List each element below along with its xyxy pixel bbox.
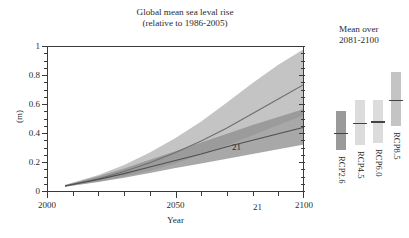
legend-label-rcp6-0: RCP6.0 [374, 149, 384, 177]
legend-title-line-1: Mean over [339, 24, 379, 35]
y-tick-minor-right [301, 82, 305, 83]
y-tick-minor-right [301, 184, 305, 185]
y-tick-minor-right [301, 169, 305, 170]
y-tick-major-right [299, 133, 305, 134]
y-tick-major-right [299, 46, 305, 47]
y-tick-major-right [299, 75, 305, 76]
x-axis-label: Year [47, 215, 304, 225]
y-tick-minor-right [301, 119, 305, 120]
y-tick-minor [44, 111, 48, 112]
x-tick-label: 2050 [167, 200, 185, 210]
y-tick-minor-right [301, 148, 305, 149]
y-tick-minor [44, 82, 48, 83]
y-tick-minor-right [301, 155, 305, 156]
x-tick-major [176, 192, 177, 198]
y-tick-label: 0 [36, 186, 41, 196]
y-tick-major [42, 75, 48, 76]
x-tick-minor [98, 192, 99, 196]
x-tick-minor [227, 192, 228, 196]
y-tick-minor [44, 148, 48, 149]
y-tick-minor-right [301, 111, 305, 112]
legend-median-rcp8-5 [389, 100, 403, 101]
y-tick-major-right [299, 191, 305, 192]
y-tick-minor [44, 61, 48, 62]
legend-label-rcp2-6: RCP2.6 [337, 156, 347, 184]
uncertainty-bands [47, 46, 304, 192]
legend-title-line-2: 2081-2100 [339, 35, 379, 46]
y-tick-minor-right [301, 53, 305, 54]
y-tick-minor-right [301, 177, 305, 178]
y-tick-label: 1 [36, 41, 41, 51]
y-tick-minor-right [301, 90, 305, 91]
annotation-lower: 21 [253, 202, 262, 212]
y-tick-minor-right [301, 140, 305, 141]
y-tick-minor [44, 155, 48, 156]
legend-label-rcp8-5: RCP8.5 [392, 132, 402, 160]
y-tick-minor [44, 169, 48, 170]
legend-median-rcp6-0 [371, 121, 385, 122]
x-tick-minor [124, 192, 125, 196]
x-tick-label: 2000 [38, 200, 56, 210]
y-tick-label: 0.4 [29, 128, 40, 138]
y-tick-minor [44, 177, 48, 178]
y-tick-major [42, 133, 48, 134]
y-tick-label: 0.8 [29, 70, 40, 80]
x-tick-label: 2100 [295, 200, 313, 210]
y-tick-minor [44, 119, 48, 120]
y-tick-minor [44, 140, 48, 141]
y-tick-minor [44, 184, 48, 185]
x-tick-major [303, 192, 304, 198]
y-tick-minor [44, 90, 48, 91]
chart-subtitle: (relative to 1986-2005) [70, 18, 300, 29]
legend-bars: RCP2.6RCP4.5RCP6.0RCP8.5 [326, 46, 406, 192]
y-tick-minor [44, 68, 48, 69]
x-tick-minor [201, 192, 202, 196]
x-tick-minor [73, 192, 74, 196]
y-tick-major [42, 104, 48, 105]
x-tick-minor [150, 192, 151, 196]
y-tick-minor-right [301, 61, 305, 62]
y-tick-minor-right [301, 126, 305, 127]
x-tick-major [47, 192, 48, 198]
y-tick-minor [44, 53, 48, 54]
y-tick-label: 0.6 [29, 99, 40, 109]
annotation-upper: 21 [232, 142, 241, 152]
plot-area: 00.20.40.60.81 200020502100 21 21 [47, 46, 304, 191]
x-tick-minor [253, 192, 254, 196]
y-tick-minor [44, 97, 48, 98]
y-tick-major [42, 46, 48, 47]
legend-label-rcp4-5: RCP4.5 [356, 151, 366, 179]
y-tick-major [42, 162, 48, 163]
chart-title: Global mean sea leval rise [70, 7, 300, 18]
axis-top [47, 46, 304, 47]
y-tick-major-right [299, 162, 305, 163]
legend-bar-rcp2-6 [336, 111, 346, 150]
legend-title: Mean over 2081-2100 [339, 24, 379, 46]
chart-title-block: Global mean sea leval rise (relative to … [70, 7, 300, 29]
sea-level-rise-figure: Global mean sea leval rise (relative to … [0, 0, 409, 238]
y-axis-label: (m) [14, 110, 24, 123]
legend-median-rcp2-6 [334, 133, 348, 134]
y-tick-major-right [299, 104, 305, 105]
y-tick-minor-right [301, 68, 305, 69]
legend-median-rcp4-5 [353, 123, 367, 124]
x-tick-minor [278, 192, 279, 196]
y-tick-minor-right [301, 97, 305, 98]
y-tick-minor [44, 126, 48, 127]
y-tick-label: 0.2 [29, 157, 40, 167]
